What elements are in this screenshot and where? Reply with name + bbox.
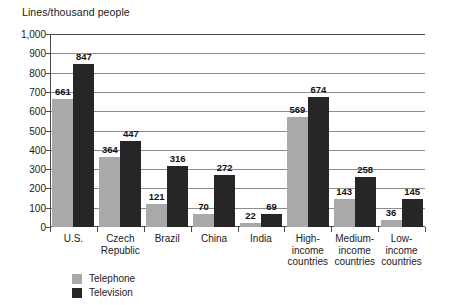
legend-item-television[interactable]: Television xyxy=(72,286,135,299)
legend-label-telephone: Telephone xyxy=(89,273,135,284)
bar-television[interactable]: 674 xyxy=(308,97,329,227)
y-axis-tick-label: 900 xyxy=(2,48,46,59)
y-axis-tick-mark xyxy=(46,131,50,132)
chart-legend: TelephoneTelevision xyxy=(72,272,135,300)
y-axis-tick-label: 800 xyxy=(2,67,46,78)
bar-groups: 6618473644471213167027222695696741432583… xyxy=(50,34,425,227)
bar-group: 661847 xyxy=(50,34,97,227)
x-axis-tick-mark xyxy=(378,227,379,232)
x-axis-tick-mark xyxy=(238,227,239,232)
bar-value-label: 364 xyxy=(102,144,118,155)
bar-telephone[interactable]: 22 xyxy=(240,223,261,227)
y-axis-tick-labels: 01002003004005006007008009001,000 xyxy=(0,34,46,227)
y-axis-title: Lines/thousand people xyxy=(22,6,130,18)
bar-telephone[interactable]: 36 xyxy=(381,220,402,227)
y-axis-tick-mark xyxy=(46,53,50,54)
x-axis-tick-mark xyxy=(97,227,98,232)
bar-value-label: 258 xyxy=(357,164,373,175)
bar-television[interactable]: 258 xyxy=(355,177,376,227)
x-axis-tick-mark xyxy=(191,227,192,232)
bar-value-label: 36 xyxy=(386,207,397,218)
y-axis-tick-mark xyxy=(46,73,50,74)
bar-value-label: 69 xyxy=(266,201,277,212)
x-axis-tick-mark xyxy=(425,227,426,232)
y-axis-tick-label: 300 xyxy=(2,164,46,175)
x-axis-category-label: High- income countries xyxy=(284,233,331,268)
bar-telephone[interactable]: 364 xyxy=(99,157,120,227)
x-axis-category-label: Medium- income countries xyxy=(331,233,378,268)
y-axis-tick-label: 1,000 xyxy=(2,29,46,40)
y-axis-tick-mark xyxy=(46,111,50,112)
x-axis-category-label: Low- income countries xyxy=(378,233,425,268)
bar-value-label: 272 xyxy=(217,162,233,173)
bar-value-label: 121 xyxy=(149,191,165,202)
bar-value-label: 145 xyxy=(404,186,420,197)
y-axis-tick-label: 100 xyxy=(2,202,46,213)
y-axis-tick-label: 700 xyxy=(2,86,46,97)
legend-swatch-television xyxy=(72,288,82,298)
y-axis-tick-label: 500 xyxy=(2,125,46,136)
bar-telephone[interactable]: 569 xyxy=(287,117,308,227)
x-axis-category-label: Czech Republic xyxy=(97,233,144,268)
x-axis-tick-mark xyxy=(50,227,51,232)
bar-group: 364447 xyxy=(97,34,144,227)
bar-television[interactable]: 272 xyxy=(214,175,235,227)
x-axis-category-label: India xyxy=(238,233,285,268)
bar-value-label: 847 xyxy=(76,51,92,62)
y-axis-tick-mark xyxy=(46,150,50,151)
bar-telephone[interactable]: 661 xyxy=(52,99,73,227)
bar-group: 121316 xyxy=(144,34,191,227)
bar-value-label: 316 xyxy=(170,153,186,164)
bar-television[interactable]: 69 xyxy=(261,214,282,227)
bar-television[interactable]: 847 xyxy=(73,64,94,227)
bar-television[interactable]: 145 xyxy=(402,199,423,227)
bar-group: 2269 xyxy=(238,34,285,227)
bar-value-label: 569 xyxy=(289,104,305,115)
y-axis-tick-label: 400 xyxy=(2,144,46,155)
x-axis-category-labels: U.S.Czech RepublicBrazilChinaIndiaHigh- … xyxy=(50,233,425,268)
bar-telephone[interactable]: 121 xyxy=(146,204,167,227)
bar-chart: Lines/thousand people 010020030040050060… xyxy=(0,0,449,305)
bar-telephone[interactable]: 143 xyxy=(334,199,355,227)
legend-label-television: Television xyxy=(89,287,133,298)
bar-group: 70272 xyxy=(191,34,238,227)
y-axis-tick-label: 600 xyxy=(2,106,46,117)
y-axis-tick-mark xyxy=(46,34,50,35)
bar-value-label: 674 xyxy=(310,84,326,95)
bar-value-label: 447 xyxy=(123,128,139,139)
x-axis-category-label: U.S. xyxy=(50,233,97,268)
bar-group: 569674 xyxy=(284,34,331,227)
bar-telephone[interactable]: 70 xyxy=(193,214,214,228)
x-axis-category-label: Brazil xyxy=(144,233,191,268)
x-axis-category-label: China xyxy=(191,233,238,268)
bar-group: 143258 xyxy=(331,34,378,227)
bar-group: 36145 xyxy=(378,34,425,227)
x-axis-tick-mark xyxy=(284,227,285,232)
x-axis-tick-mark xyxy=(144,227,145,232)
bar-value-label: 661 xyxy=(55,86,71,97)
y-axis-tick-mark xyxy=(46,208,50,209)
legend-swatch-telephone xyxy=(72,274,82,284)
y-axis-tick-label: 200 xyxy=(2,183,46,194)
bar-value-label: 22 xyxy=(245,210,256,221)
y-axis-tick-mark xyxy=(46,188,50,189)
y-axis-tick-mark xyxy=(46,92,50,93)
y-axis-tick-mark xyxy=(46,169,50,170)
bar-television[interactable]: 316 xyxy=(167,166,188,227)
y-axis-tick-label: 0 xyxy=(2,222,46,233)
x-axis-tick-mark xyxy=(331,227,332,232)
bar-value-label: 70 xyxy=(198,201,209,212)
legend-item-telephone[interactable]: Telephone xyxy=(72,272,135,285)
bar-television[interactable]: 447 xyxy=(120,141,141,227)
bar-value-label: 143 xyxy=(336,186,352,197)
